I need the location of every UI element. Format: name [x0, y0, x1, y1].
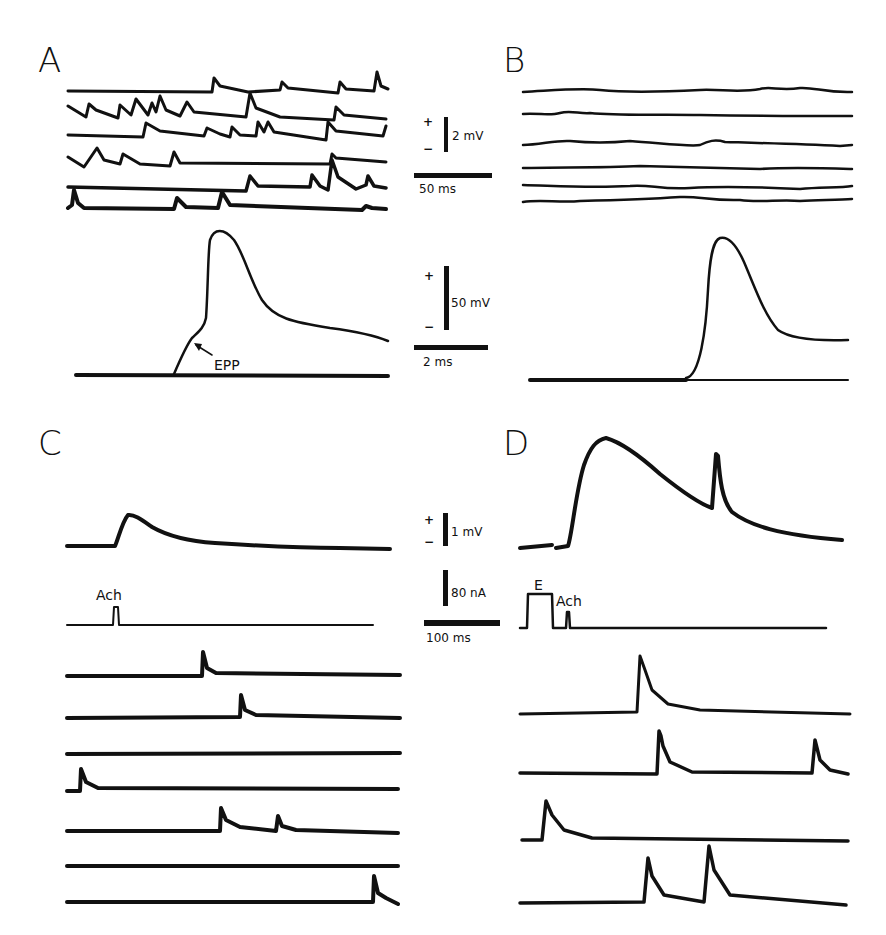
epp-arrow-head	[194, 343, 202, 351]
panel-c-sweeps	[67, 652, 400, 904]
time-scale-bar	[414, 345, 488, 350]
e-label: E	[534, 577, 543, 593]
baseline-trace	[76, 375, 388, 376]
time-scale-label: 50 ms	[419, 182, 456, 196]
current-scale-label: 80 nA	[451, 586, 487, 600]
voltage-scale-bar	[443, 513, 448, 546]
voltage-scale-label: 50 mV	[451, 296, 491, 310]
voltage-scale-label: 2 mV	[452, 129, 484, 143]
panel-label-c: C	[38, 423, 62, 463]
ach-label: Ach	[96, 587, 122, 603]
trace	[522, 801, 848, 841]
trace	[67, 753, 400, 754]
panel-a-action-potential: EPP	[76, 231, 388, 376]
trace	[520, 656, 850, 714]
trace	[523, 197, 852, 202]
trace	[68, 93, 386, 120]
voltage-scale-bar	[444, 266, 449, 330]
scale-bar-bottom: + − 1 mV 80 nA 100 ms	[424, 513, 500, 645]
epp-label: EPP	[214, 357, 240, 373]
scale-minus: −	[423, 142, 433, 156]
panel-label-a: A	[38, 40, 61, 80]
current-scale-bar	[443, 570, 448, 606]
trace	[68, 148, 386, 167]
ach-stimulus-trace	[67, 607, 373, 625]
action-potential-trace	[174, 231, 388, 374]
trace	[523, 166, 852, 169]
panel-label-d: D	[503, 423, 529, 463]
panel-a-sweeps	[68, 72, 388, 210]
panel-b-action-potential	[530, 238, 848, 380]
voltage-scale-label: 1 mV	[451, 525, 483, 539]
trace	[520, 731, 848, 774]
time-scale-bar	[414, 173, 492, 178]
trace	[67, 876, 398, 904]
panel-d-sweeps	[520, 656, 850, 905]
trace	[68, 122, 386, 140]
scale-minus: −	[424, 320, 434, 334]
trace	[67, 769, 398, 791]
time-scale-bar	[424, 620, 500, 626]
trace	[67, 652, 400, 676]
scale-plus: +	[423, 115, 433, 129]
trace	[523, 141, 852, 146]
scale-plus: +	[424, 269, 434, 283]
trace	[68, 190, 386, 210]
scale-bar-top: + − 2 mV 50 ms	[414, 115, 492, 196]
scale-plus: +	[424, 513, 434, 527]
voltage-scale-bar	[444, 117, 448, 152]
scale-bar-middle: + − 50 mV 2 ms	[414, 266, 491, 369]
response-trace	[520, 545, 552, 548]
panel-d-response: E Ach	[520, 438, 842, 628]
panel-c-ach-response: Ach	[67, 515, 390, 625]
panel-label-b: B	[503, 40, 525, 80]
trace	[523, 88, 852, 92]
panel-b-sweeps	[523, 88, 852, 202]
time-scale-label: 2 ms	[423, 355, 452, 369]
trace	[67, 808, 398, 833]
figure-canvas: A B C D + − 2 mV 50 ms EPP + − 50 mV 2 m…	[0, 0, 886, 935]
action-potential-trace	[686, 238, 848, 378]
response-trace	[67, 515, 390, 549]
trace	[67, 695, 400, 718]
time-scale-label: 100 ms	[426, 631, 471, 645]
scale-minus: −	[424, 535, 434, 549]
ach-label: Ach	[556, 593, 582, 609]
response-trace	[556, 438, 842, 548]
trace	[523, 112, 852, 116]
trace	[520, 846, 846, 905]
trace	[523, 185, 852, 189]
trace	[68, 72, 388, 93]
